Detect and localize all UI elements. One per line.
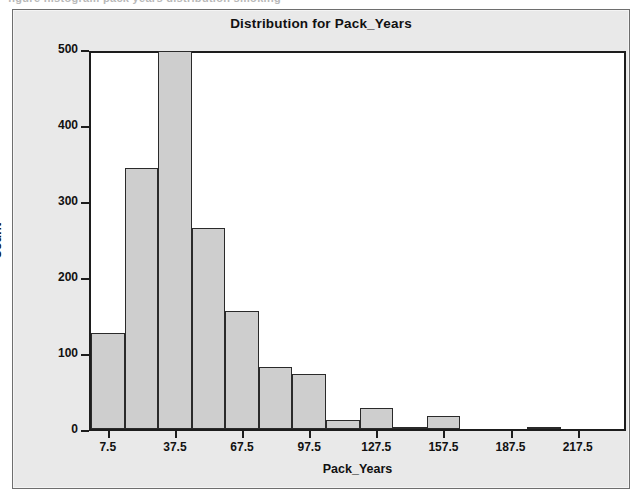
histogram-bar [158, 51, 192, 429]
chart-title: Distribution for Pack_Years [13, 16, 629, 31]
x-axis-tick-label: 187.5 [496, 440, 526, 454]
clipped-header-label: figure histogram pack years distribution… [8, 0, 281, 4]
histogram-bar [292, 374, 326, 429]
y-axis-tick-label: 500 [58, 42, 78, 56]
x-axis-tick-label: 37.5 [163, 440, 186, 454]
y-axis-tick-label: 300 [58, 194, 78, 208]
x-axis-tick-label: 67.5 [230, 440, 253, 454]
x-axis-tick-label: 157.5 [428, 440, 458, 454]
x-axis-tick-label: 7.5 [99, 440, 116, 454]
x-axis-tick-label: 127.5 [361, 440, 391, 454]
x-axis-tick-mark [108, 429, 110, 438]
y-axis-tick-mark [81, 126, 89, 128]
x-axis-title: Pack_Years [91, 462, 624, 476]
x-axis-tick-mark [578, 429, 580, 438]
y-axis-tick-label: 200 [58, 270, 78, 284]
histogram-bars [91, 53, 624, 429]
y-axis-tick-mark [81, 430, 89, 432]
x-axis-tick-mark [309, 429, 311, 438]
x-axis-tick-mark [242, 429, 244, 438]
x-axis-tick-mark [443, 429, 445, 438]
x-axis-tick-mark [511, 429, 513, 438]
plot-area: 7.537.567.597.5127.5157.5187.5217.5 Pack… [89, 51, 626, 431]
histogram-bar [91, 333, 125, 429]
x-axis: 7.537.567.597.5127.5157.5187.5217.5 Pack… [91, 429, 624, 489]
x-axis-tick-label: 97.5 [297, 440, 320, 454]
histogram-bar [427, 416, 461, 429]
x-axis-tick-mark [175, 429, 177, 438]
y-axis-tick-mark [81, 354, 89, 356]
chart-frame: Distribution for Pack_Years 010020030040… [12, 9, 630, 489]
y-axis: 0100200300400500 Count [13, 51, 89, 431]
x-axis-tick-label: 217.5 [563, 440, 593, 454]
x-axis-tick-mark [376, 429, 378, 438]
histogram-bar [360, 408, 394, 429]
clipped-header-text: figure histogram pack years distribution… [0, 0, 644, 8]
histogram-bar [259, 367, 293, 429]
y-axis-tick-mark [81, 278, 89, 280]
y-axis-tick-mark [81, 202, 89, 204]
y-axis-tick-label: 0 [71, 422, 78, 436]
y-axis-title: Count [0, 223, 4, 259]
histogram-bar [192, 228, 226, 429]
histogram-bar [326, 420, 360, 429]
y-axis-tick-mark [81, 50, 89, 52]
y-axis-tick-label: 100 [58, 346, 78, 360]
y-axis-tick-label: 400 [58, 118, 78, 132]
histogram-bar [125, 168, 159, 429]
histogram-bar [225, 311, 259, 429]
